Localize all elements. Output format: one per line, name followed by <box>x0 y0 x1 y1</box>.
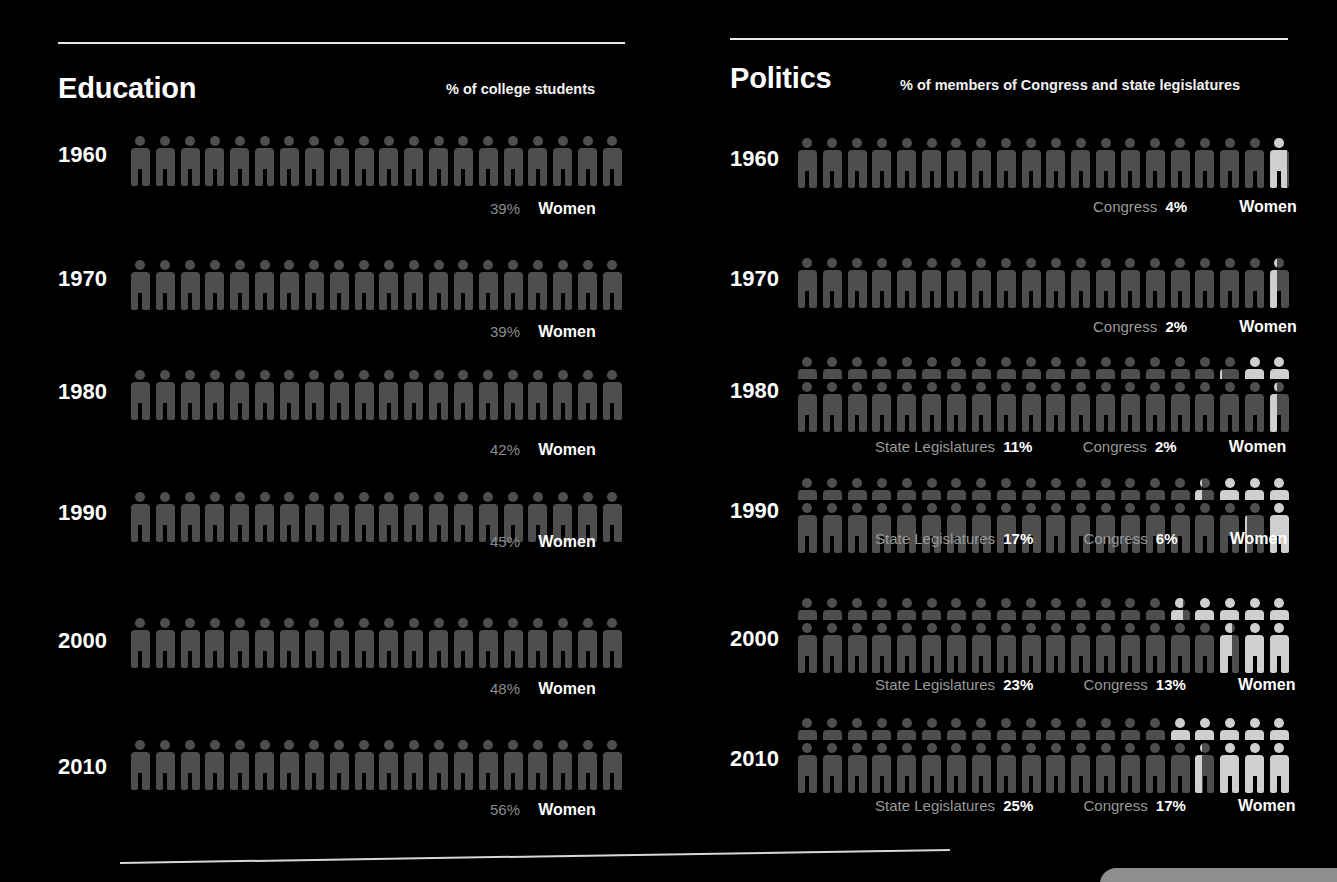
person-icon <box>944 718 969 740</box>
person-icon <box>426 370 451 420</box>
person-icon <box>526 618 551 668</box>
person-icon <box>277 370 302 420</box>
person-icon <box>252 618 277 668</box>
person-icon <box>894 382 919 432</box>
person-icon <box>1019 478 1044 500</box>
bottom-corner-shape <box>1100 868 1337 882</box>
person-icon <box>994 718 1019 740</box>
state-legislatures-percent: 11% <box>1003 438 1032 455</box>
person-icon <box>327 492 352 542</box>
person-icon <box>1019 138 1044 188</box>
person-icon <box>1043 258 1068 308</box>
person-icon <box>451 370 476 420</box>
politics-caption: Congress 2% Women <box>1093 318 1297 336</box>
person-icon <box>944 357 969 379</box>
year-label: 1980 <box>58 379 107 405</box>
person-icon <box>203 618 228 668</box>
education-women-label: Women <box>538 680 595 697</box>
person-icon <box>894 138 919 188</box>
person-icon <box>1043 718 1068 740</box>
person-icon <box>1217 623 1242 673</box>
person-icon <box>476 260 501 310</box>
person-icon <box>1242 138 1267 188</box>
politics-state-pictogram-row <box>795 598 1292 620</box>
person-icon <box>1143 743 1168 793</box>
person-icon <box>1193 382 1218 432</box>
person-icon <box>1193 623 1218 673</box>
person-icon <box>327 136 352 186</box>
person-icon <box>1043 623 1068 673</box>
person-icon <box>795 357 820 379</box>
person-icon <box>426 492 451 542</box>
person-icon <box>1093 743 1118 793</box>
person-icon <box>845 743 870 793</box>
person-icon <box>252 492 277 542</box>
person-icon <box>1242 718 1267 740</box>
person-icon <box>994 478 1019 500</box>
person-icon <box>1068 743 1093 793</box>
person-icon <box>1118 357 1143 379</box>
person-icon <box>969 382 994 432</box>
person-icon <box>227 136 252 186</box>
person-icon <box>1242 478 1267 500</box>
person-icon <box>1168 743 1193 793</box>
person-icon <box>845 258 870 308</box>
education-top-rule <box>58 42 625 44</box>
person-icon <box>1093 623 1118 673</box>
person-icon <box>944 598 969 620</box>
education-caption: 45% Women <box>490 533 596 551</box>
person-icon <box>894 623 919 673</box>
person-icon <box>426 136 451 186</box>
person-icon <box>1019 743 1044 793</box>
person-icon <box>376 492 401 542</box>
state-legislatures-label: State Legislatures <box>875 676 995 693</box>
person-icon <box>1217 382 1242 432</box>
person-icon <box>153 260 178 310</box>
person-icon <box>575 740 600 790</box>
person-icon <box>252 136 277 186</box>
person-icon <box>1168 382 1193 432</box>
year-label: 1990 <box>730 498 779 524</box>
politics-congress-pictogram-row <box>795 258 1292 308</box>
person-icon <box>820 258 845 308</box>
education-title: Education <box>58 72 196 105</box>
person-icon <box>1093 718 1118 740</box>
person-icon <box>1217 743 1242 793</box>
person-icon <box>919 718 944 740</box>
person-icon <box>302 740 327 790</box>
state-legislatures-label: State Legislatures <box>875 530 995 547</box>
person-icon <box>1193 718 1218 740</box>
politics-congress-pictogram-row <box>795 743 1292 793</box>
person-icon <box>1267 623 1292 673</box>
state-legislatures-percent: 25% <box>1003 797 1033 814</box>
person-icon <box>795 743 820 793</box>
person-icon <box>1118 258 1143 308</box>
person-icon <box>845 478 870 500</box>
person-icon <box>1068 598 1093 620</box>
person-icon <box>1118 382 1143 432</box>
person-icon <box>1217 258 1242 308</box>
person-icon <box>1143 598 1168 620</box>
person-icon <box>1019 623 1044 673</box>
person-icon <box>1168 258 1193 308</box>
politics-caption: State Legislatures 23% Congress 13% Wome… <box>875 676 1296 694</box>
person-icon <box>795 478 820 500</box>
person-icon <box>1242 382 1267 432</box>
year-label: 1960 <box>58 142 107 168</box>
person-icon <box>401 740 426 790</box>
person-icon <box>1267 382 1292 432</box>
person-icon <box>128 260 153 310</box>
person-icon <box>501 740 526 790</box>
person-icon <box>153 370 178 420</box>
person-icon <box>1068 138 1093 188</box>
person-icon <box>1267 357 1292 379</box>
person-icon <box>451 740 476 790</box>
person-icon <box>401 618 426 668</box>
person-icon <box>550 370 575 420</box>
person-icon <box>1242 598 1267 620</box>
person-icon <box>153 740 178 790</box>
politics-women-label: Women <box>1238 797 1295 814</box>
person-icon <box>1118 718 1143 740</box>
person-icon <box>994 598 1019 620</box>
person-icon <box>327 618 352 668</box>
